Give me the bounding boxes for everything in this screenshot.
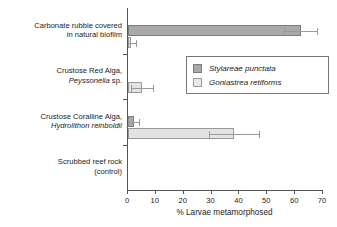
x-tick-mark: [238, 190, 239, 194]
y-tick-mark: [123, 54, 127, 55]
error-bar-line: [284, 31, 317, 32]
category-label-line: Scrubbed reef rock: [0, 157, 122, 167]
error-bar-line: [209, 134, 259, 135]
x-tick-mark: [294, 190, 295, 194]
x-tick-mark: [266, 190, 267, 194]
error-bar-cap: [128, 119, 129, 126]
error-bar-cap: [139, 119, 140, 126]
x-tick-label: 40: [234, 196, 242, 205]
error-bar-cap: [153, 85, 154, 92]
y-tick-mark: [123, 99, 127, 100]
category-label-line: Crustose Coralline Alga,: [0, 112, 122, 122]
x-tick-label: 60: [290, 196, 298, 205]
y-tick-mark: [123, 145, 127, 146]
legend-item: Stylareae punctata: [193, 61, 322, 75]
category-label-line: Peyssonelia sp.: [0, 76, 122, 86]
plot-area: 010203040506070 % Larvae metamorphosed: [127, 8, 322, 190]
error-bar-line: [128, 43, 136, 44]
bar: [128, 25, 301, 36]
error-bar-cap: [128, 40, 129, 47]
category-label: Carbonate rubble coveredin natural biofi…: [0, 21, 122, 40]
category-label: Scrubbed reef rock(control): [0, 157, 122, 176]
x-tick-mark: [183, 190, 184, 194]
error-bar-cap: [209, 131, 210, 138]
error-bar-line: [131, 88, 153, 89]
error-bar-line: [128, 122, 139, 123]
error-bar-cap: [284, 28, 285, 35]
legend-swatch-icon: [193, 64, 202, 73]
error-bar-cap: [136, 40, 137, 47]
legend-swatch-icon: [193, 78, 202, 87]
x-tick-mark: [155, 190, 156, 194]
category-label-line: Hydrolithon reinboldii: [0, 121, 122, 131]
x-tick-label: 10: [151, 196, 159, 205]
species-name: Peyssonelia: [69, 76, 110, 85]
legend-label: Goniastrea retiforms: [209, 78, 281, 87]
x-tick-mark: [127, 190, 128, 194]
x-axis-title: % Larvae metamorphosed: [127, 208, 322, 217]
category-label: Crustose Coralline Alga,Hydrolithon rein…: [0, 112, 122, 131]
category-label: Crustose Red Alga,Peyssonelia sp.: [0, 66, 122, 85]
category-label-line: Crustose Red Alga,: [0, 66, 122, 76]
x-tick-mark: [211, 190, 212, 194]
chart-legend: Stylareae punctata Goniastrea retiforms: [186, 56, 329, 94]
x-tick-label: 70: [318, 196, 326, 205]
legend-label: Stylareae punctata: [209, 64, 276, 73]
error-bar-cap: [259, 131, 260, 138]
category-axis-labels: Carbonate rubble coveredin natural biofi…: [0, 0, 122, 190]
legend-item: Goniastrea retiforms: [193, 75, 322, 89]
species-name: Hydrolithon reinboldii: [51, 121, 122, 130]
category-label-line: Carbonate rubble covered: [0, 21, 122, 31]
category-label-line: (control): [0, 167, 122, 177]
chart-figure: Carbonate rubble coveredin natural biofi…: [0, 0, 337, 227]
x-tick-label: 0: [125, 196, 129, 205]
x-tick-mark: [322, 190, 323, 194]
x-tick-label: 30: [206, 196, 214, 205]
error-bar-cap: [317, 28, 318, 35]
x-tick-label: 20: [178, 196, 186, 205]
category-label-line: in natural biofilm: [0, 30, 122, 40]
x-tick-label: 50: [262, 196, 270, 205]
error-bar-cap: [131, 85, 132, 92]
